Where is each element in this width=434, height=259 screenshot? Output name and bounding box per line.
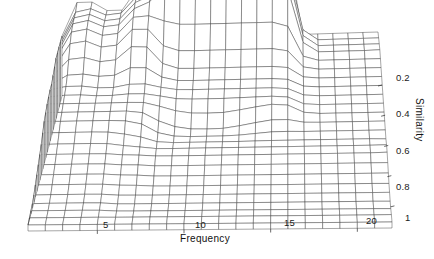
- y-tick-0_8: 0.8: [396, 181, 410, 192]
- x-tick-10: 10: [195, 219, 206, 230]
- x-tick-5: 5: [103, 219, 108, 230]
- x-axis-title: Frequency: [180, 233, 230, 244]
- surface-plot-figure: 5 10 15 20 Frequency 0.2 0.4 0.6 0.8 1 S…: [0, 0, 434, 259]
- y-tick-0_6: 0.6: [396, 145, 410, 156]
- y-tick-0_4: 0.4: [396, 108, 410, 119]
- y-axis-title: Similarity: [414, 98, 425, 142]
- x-tick-20: 20: [366, 215, 377, 226]
- x-tick-15: 15: [284, 217, 295, 228]
- y-tick-1: 1: [405, 212, 410, 223]
- y-tick-0_2: 0.2: [396, 72, 410, 83]
